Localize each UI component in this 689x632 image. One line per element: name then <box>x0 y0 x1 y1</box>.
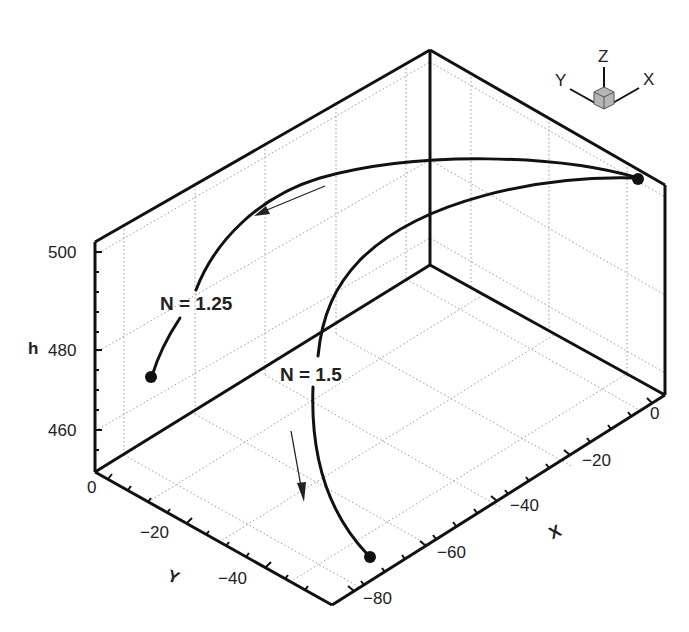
x-axis-title: X <box>546 521 565 543</box>
x-tick-minus60: −60 <box>437 543 466 562</box>
triad-y-label: Y <box>555 71 566 90</box>
axis-box-frame <box>95 50 665 605</box>
x-axis-tick-labels: 0 −20 −40 −60 −80 <box>363 404 659 608</box>
trajectory-n125 <box>145 159 638 383</box>
y-axis-tick-labels: 0 −20 −40 <box>87 478 247 588</box>
x-axis-line <box>332 395 665 605</box>
y-axis-line <box>95 472 332 605</box>
end-marker-n125 <box>145 371 157 383</box>
y-axis-title: Y <box>165 566 183 588</box>
x-tick-0: 0 <box>650 404 659 423</box>
triad-x-label: X <box>643 70 654 89</box>
chart-3d-trajectories: 500 480 460 h 0 −20 −40 Y 0 −20 −40 −60 … <box>0 0 689 632</box>
curve-label-n150: N = 1.5 <box>280 364 342 385</box>
z-tick-460: 460 <box>48 421 76 440</box>
curve-label-n125: N = 1.25 <box>160 293 233 314</box>
axis-orientation-triad: Z Y X <box>555 47 654 109</box>
grid-lines <box>95 62 665 588</box>
y-tick-minus20: −20 <box>140 523 169 542</box>
triad-z-label: Z <box>598 47 608 66</box>
y-tick-0: 0 <box>87 478 96 497</box>
trajectory-n150 <box>313 178 638 563</box>
z-tick-500: 500 <box>48 243 76 262</box>
z-axis-tick-labels: 500 480 460 <box>48 243 76 440</box>
end-marker-n150 <box>364 551 376 563</box>
y-tick-minus40: −40 <box>218 569 247 588</box>
direction-arrow-n150 <box>291 431 306 502</box>
z-tick-480: 480 <box>48 341 76 360</box>
z-axis-title: h <box>28 339 38 358</box>
x-tick-minus20: −20 <box>582 451 611 470</box>
x-tick-minus80: −80 <box>363 589 392 608</box>
x-tick-minus40: −40 <box>510 496 539 515</box>
start-marker <box>632 173 644 185</box>
